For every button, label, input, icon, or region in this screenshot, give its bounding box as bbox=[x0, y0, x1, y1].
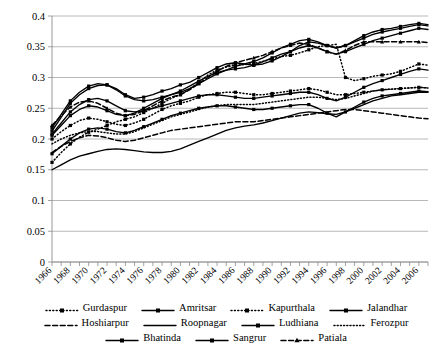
x-tick-label: 2006 bbox=[400, 265, 421, 286]
legend-item-gurdaspur[interactable]: Gurdaspur bbox=[45, 302, 127, 313]
x-tick-label: 1980 bbox=[161, 265, 182, 286]
legend-key-icon bbox=[45, 302, 79, 313]
chart-legend: GurdaspurAmritsarKapurthalaJalandharHosh… bbox=[34, 300, 418, 345]
x-tick-label: 1990 bbox=[253, 265, 274, 286]
y-tick-label: 0 bbox=[40, 257, 45, 268]
x-tick-label: 1976 bbox=[125, 265, 146, 286]
x-tick-label: 2000 bbox=[345, 265, 366, 286]
legend-key-icon bbox=[141, 302, 175, 313]
legend-key-icon bbox=[230, 302, 264, 313]
x-tick-label: 1972 bbox=[88, 265, 109, 286]
x-tick-label: 1998 bbox=[326, 265, 347, 286]
x-tick-label: 1992 bbox=[271, 265, 292, 286]
y-tick-label: 0.1 bbox=[32, 195, 45, 206]
legend-row: BhatindaSangrurPatiala bbox=[34, 330, 418, 345]
legend-label: Ferozpur bbox=[371, 317, 409, 328]
y-tick-label: 0.05 bbox=[27, 226, 45, 237]
legend-label: Sangrur bbox=[233, 332, 266, 343]
legend-row: HoshiarpurRoopnagarLudhianaFerozpur bbox=[34, 315, 418, 330]
series-ferozpur bbox=[52, 87, 428, 144]
legend-item-hoshiarpur[interactable]: Hoshiarpur bbox=[44, 317, 129, 328]
x-tick-label: 2002 bbox=[363, 265, 384, 286]
legend-item-amritsar[interactable]: Amritsar bbox=[141, 302, 216, 313]
y-tick-label: 0.2 bbox=[32, 134, 45, 145]
x-tick-label: 1968 bbox=[51, 265, 72, 286]
x-tick-label: 1982 bbox=[180, 265, 201, 286]
legend-label: Bhatinda bbox=[143, 332, 181, 343]
series-hoshiarpur bbox=[52, 109, 428, 152]
x-tick-label: 1974 bbox=[106, 265, 127, 286]
x-tick-label: 2004 bbox=[381, 265, 402, 286]
x-tick-label: 1984 bbox=[198, 265, 219, 286]
legend-item-patiala[interactable]: Patiala bbox=[280, 332, 347, 343]
x-tick-label: 1986 bbox=[216, 265, 237, 286]
legend-item-bhatinda[interactable]: Bhatinda bbox=[105, 332, 181, 343]
x-tick-label: 1996 bbox=[308, 265, 329, 286]
legend-key-icon bbox=[280, 332, 314, 343]
legend-key-icon bbox=[143, 317, 177, 328]
legend-label: Ludhiana bbox=[279, 317, 319, 328]
legend-label: Kapurthala bbox=[268, 302, 315, 313]
y-tick-label: 0.35 bbox=[27, 41, 45, 52]
legend-key-icon bbox=[105, 332, 139, 343]
legend-label: Patiala bbox=[318, 332, 347, 343]
legend-label: Gurdaspur bbox=[83, 302, 127, 313]
x-tick-label: 1988 bbox=[235, 265, 256, 286]
x-tick-label: 1978 bbox=[143, 265, 164, 286]
legend-key-icon bbox=[329, 302, 363, 313]
y-tick-label: 0.4 bbox=[32, 11, 46, 22]
y-axis-ticks: 00.050.10.150.20.250.30.350.4 bbox=[27, 11, 46, 268]
legend-row: GurdaspurAmritsarKapurthalaJalandhar bbox=[34, 300, 418, 315]
y-tick-label: 0.15 bbox=[27, 164, 45, 175]
legend-label: Jalandhar bbox=[367, 302, 407, 313]
legend-label: Amritsar bbox=[179, 302, 216, 313]
gridlines bbox=[48, 16, 428, 262]
x-tick-label: 1994 bbox=[290, 265, 311, 286]
y-tick-label: 0.3 bbox=[32, 72, 45, 83]
x-tick-label: 1970 bbox=[70, 265, 91, 286]
legend-item-ferozpur[interactable]: Ferozpur bbox=[333, 317, 409, 328]
legend-key-icon bbox=[195, 332, 229, 343]
legend-item-roopnagar[interactable]: Roopnagar bbox=[143, 317, 227, 328]
y-tick-label: 0.25 bbox=[27, 103, 45, 114]
legend-item-ludhiana[interactable]: Ludhiana bbox=[241, 317, 319, 328]
data-series-layer bbox=[50, 22, 428, 170]
legend-label: Hoshiarpur bbox=[82, 317, 129, 328]
legend-item-kapurthala[interactable]: Kapurthala bbox=[230, 302, 315, 313]
legend-item-jalandhar[interactable]: Jalandhar bbox=[329, 302, 407, 313]
legend-label: Roopnagar bbox=[181, 317, 227, 328]
legend-key-icon bbox=[333, 317, 367, 328]
chart-figure: 00.050.10.150.20.250.30.350.4 1966196819… bbox=[0, 0, 440, 361]
legend-key-icon bbox=[44, 317, 78, 328]
x-tick-label: 1966 bbox=[33, 265, 54, 286]
legend-item-sangrur[interactable]: Sangrur bbox=[195, 332, 266, 343]
legend-key-icon bbox=[241, 317, 275, 328]
x-axis-ticks: 1966196819701972197419761978198019821984… bbox=[33, 262, 428, 286]
